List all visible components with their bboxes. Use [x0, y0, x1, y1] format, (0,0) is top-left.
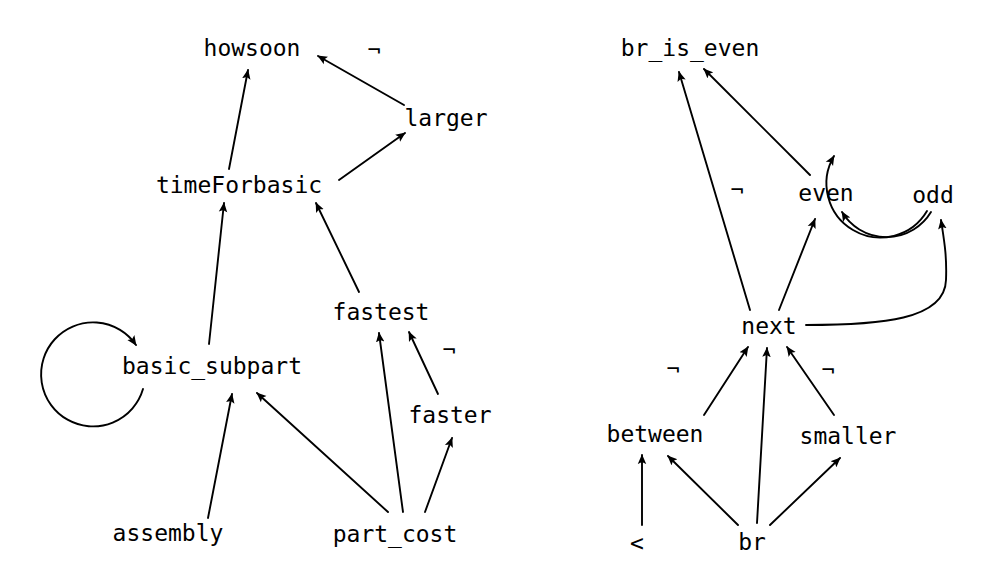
edge-timeForbasic-larger	[339, 133, 405, 180]
edge-part_cost-fastest	[379, 333, 403, 512]
edge-basic_subpart-timeForbasic	[209, 203, 224, 344]
edge-timeForbasic-howsoon	[229, 70, 248, 169]
node-next[interactable]: next	[741, 315, 796, 338]
node-even[interactable]: even	[798, 182, 853, 205]
edge-odd-even	[842, 212, 931, 237]
node-assembly[interactable]: assembly	[113, 522, 224, 545]
node-part_cost[interactable]: part_cost	[333, 523, 458, 546]
edge-part_cost-basic_subpart	[257, 393, 388, 512]
node-br_is_even[interactable]: br_is_even	[621, 37, 759, 60]
node-larger[interactable]: larger	[404, 107, 487, 130]
edge-larger-howsoon	[318, 56, 404, 105]
edge-even-br_is_even	[704, 69, 810, 175]
node-smaller[interactable]: smaller	[800, 425, 897, 448]
node-fastest[interactable]: fastest	[333, 301, 430, 324]
edge-next-even	[779, 219, 815, 310]
edge-between-next	[704, 347, 748, 415]
node-between[interactable]: between	[607, 423, 704, 446]
edge-br-smaller	[770, 458, 840, 525]
edge-br-next	[757, 348, 767, 523]
edge-part_cost-faster	[425, 438, 452, 512]
node-basic_subpart[interactable]: basic_subpart	[122, 355, 302, 378]
node-less-than[interactable]: <	[630, 532, 644, 555]
edge-next-odd	[806, 220, 946, 325]
edge-layer	[0, 0, 991, 582]
negation-icon-larger-howsoon: ¬	[367, 39, 380, 61]
node-odd[interactable]: odd	[912, 184, 954, 207]
negation-icon-faster-fastest: ¬	[442, 339, 455, 361]
edge-br-between	[668, 456, 738, 525]
node-howsoon[interactable]: howsoon	[204, 37, 301, 60]
edge-faster-fastest	[409, 332, 438, 394]
diagram-canvas: howsoon larger timeForbasic fastest basi…	[0, 0, 991, 582]
node-br[interactable]: br	[738, 531, 766, 554]
node-timeForbasic[interactable]: timeForbasic	[156, 174, 322, 197]
edge-fastest-timeForbasic	[316, 203, 359, 292]
negation-icon-next-br_is_even: ¬	[730, 179, 743, 201]
edge-assembly-basic_subpart	[208, 394, 232, 518]
negation-icon-between-next: ¬	[666, 358, 679, 380]
node-faster[interactable]: faster	[408, 404, 491, 427]
negation-icon-smaller-next: ¬	[821, 359, 834, 381]
